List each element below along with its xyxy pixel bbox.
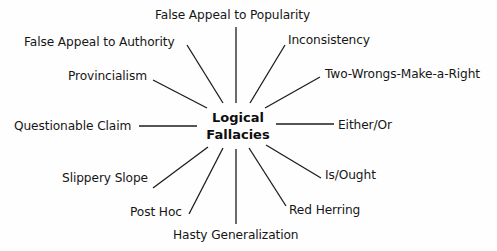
node-slippery-slope: Slippery Slope [62, 171, 148, 185]
node-provincialism: Provincialism [68, 69, 147, 83]
node-post-hoc: Post Hoc [130, 205, 182, 219]
spoke-authority [187, 45, 223, 103]
spoke-two-wrongs [265, 77, 320, 108]
node-two-wrongs: Two-Wrongs-Make-a-Right [325, 67, 480, 81]
center-topic: Logical Fallacies [198, 109, 278, 143]
spoke-slippery-slope [153, 147, 208, 188]
node-popularity: False Appeal to Popularity [155, 8, 310, 22]
node-is-ought: Is/Ought [325, 168, 376, 182]
spoke-provincialism [153, 80, 207, 108]
node-questionable-claim: Questionable Claim [14, 119, 131, 133]
node-inconsistency: Inconsistency [288, 33, 370, 47]
spoke-red-herring [249, 148, 286, 206]
spoke-is-ought [266, 145, 321, 178]
node-either-or: Either/Or [338, 118, 392, 132]
spoke-inconsistency [250, 45, 285, 103]
node-authority: False Appeal to Authority [24, 35, 175, 49]
center-topic-line1: Logical [198, 109, 278, 126]
node-red-herring: Red Herring [289, 203, 360, 217]
logical-fallacies-diagram: Logical Fallacies False Appeal to Popula… [0, 0, 497, 251]
center-topic-line2: Fallacies [198, 126, 278, 143]
node-hasty-generalization: Hasty Generalization [173, 228, 298, 242]
